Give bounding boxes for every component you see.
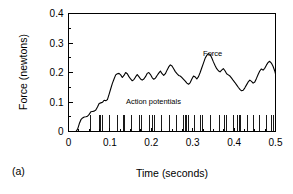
force-and-spike-chart: 00.10.20.30.4 00.10.20.30.40.5 Force Act…: [0, 0, 293, 194]
x-tick-label: 0.5: [269, 137, 283, 148]
y-axis-title: Force (newtons): [17, 34, 29, 110]
x-tick-label: 0.2: [144, 137, 158, 148]
panel-label: (a): [12, 165, 25, 177]
x-axis-title: Time (seconds): [136, 167, 208, 179]
y-tick-label: 0.1: [50, 97, 64, 108]
y-tick-label: 0.4: [50, 8, 64, 19]
x-axis: 00.10.20.30.40.5: [66, 128, 283, 148]
y-tick-label: 0: [58, 126, 64, 137]
y-tick-label: 0.3: [50, 38, 64, 49]
x-tick-label: 0: [66, 137, 72, 148]
y-axis: 00.10.20.30.4: [50, 8, 73, 137]
x-tick-label: 0.1: [103, 137, 117, 148]
x-tick-label: 0.3: [186, 137, 200, 148]
force-annotation-label: Force: [203, 49, 222, 58]
plot-frame: [69, 14, 276, 132]
x-tick-label: 0.4: [227, 137, 241, 148]
y-tick-label: 0.2: [50, 67, 64, 78]
figure-panel: 00.10.20.30.4 00.10.20.30.40.5 Force Act…: [0, 0, 293, 194]
action-potentials-annotation-label: Action potentials: [126, 97, 181, 106]
